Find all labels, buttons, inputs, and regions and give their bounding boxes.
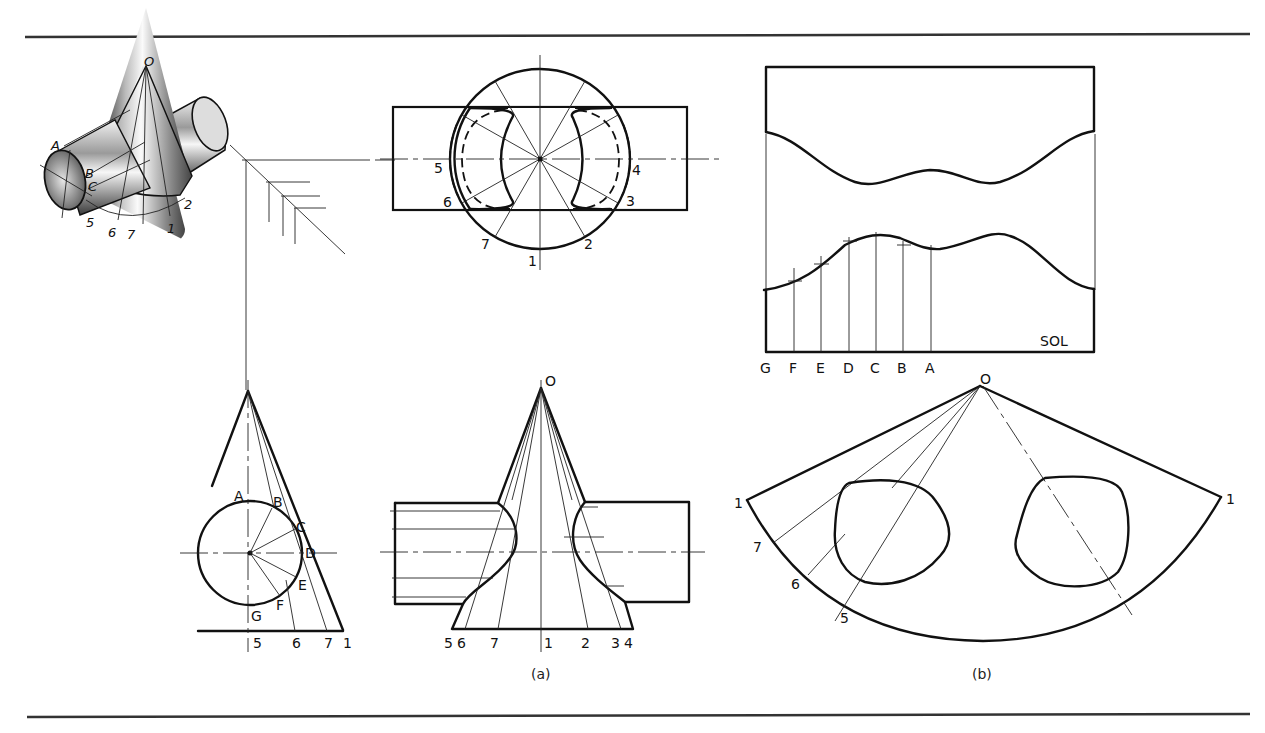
front-base-5: 5 bbox=[444, 635, 453, 651]
station-f: F bbox=[789, 360, 797, 376]
top-view-number-2: 2 bbox=[584, 236, 593, 252]
top-view-number-4: 4 bbox=[632, 162, 641, 178]
front-base-6: 6 bbox=[457, 635, 466, 651]
front-base-3: 3 bbox=[611, 635, 620, 651]
front-base-1: 1 bbox=[544, 635, 553, 651]
station-a: A bbox=[925, 360, 935, 376]
front-apex-label: O bbox=[545, 373, 556, 389]
side-letter-b: B bbox=[273, 494, 283, 510]
pictorial-number-6: 6 bbox=[108, 225, 116, 240]
side-base-7: 7 bbox=[324, 635, 333, 651]
top-view-number-5: 5 bbox=[434, 160, 443, 176]
side-base-5: 5 bbox=[253, 635, 262, 651]
left-hole bbox=[835, 480, 949, 584]
sol-stamp: SOL bbox=[1040, 333, 1068, 349]
miter-construction bbox=[230, 145, 395, 390]
pictorial-view: O A B C 5 6 7 1 2 bbox=[39, 8, 234, 242]
station-e: E bbox=[816, 360, 825, 376]
miter-line bbox=[230, 145, 345, 254]
caption-a: (a) bbox=[531, 666, 551, 682]
top-rule bbox=[25, 34, 1250, 37]
station-d: D bbox=[843, 360, 854, 376]
development-left-1: 1 bbox=[734, 495, 743, 511]
intersection-drawing-sheet: O A B C 5 6 7 1 2 bbox=[0, 0, 1265, 733]
cone-development: O 1 1 7 6 5 (b) bbox=[734, 371, 1235, 682]
bottom-rule bbox=[27, 714, 1250, 717]
development-radial-6: 6 bbox=[791, 576, 800, 592]
top-view-number-3: 3 bbox=[626, 193, 635, 209]
development-radial-5: 5 bbox=[840, 610, 849, 626]
side-letter-g: G bbox=[251, 608, 262, 624]
front-base-7: 7 bbox=[490, 635, 499, 651]
pictorial-number-1: 1 bbox=[167, 221, 175, 236]
side-letter-e: E bbox=[298, 577, 307, 593]
side-base-6: 6 bbox=[292, 635, 301, 651]
front-base-2: 2 bbox=[581, 635, 590, 651]
top-view-number-1: 1 bbox=[528, 253, 537, 269]
side-view: A B C D E F G 5 6 7 1 bbox=[180, 380, 352, 652]
side-base-1: 1 bbox=[343, 635, 352, 651]
pictorial-apex-label: O bbox=[144, 54, 154, 69]
pictorial-letter-c: C bbox=[88, 179, 98, 194]
pictorial-number-7: 7 bbox=[127, 227, 136, 242]
development-radial-7: 7 bbox=[753, 539, 762, 555]
top-view-number-6: 6 bbox=[443, 194, 452, 210]
right-hole bbox=[1016, 477, 1129, 587]
pictorial-letter-a: A bbox=[50, 138, 60, 153]
top-view: 5 6 7 1 2 3 4 bbox=[380, 55, 720, 270]
side-letter-c: C bbox=[296, 519, 306, 535]
top-view-number-7: 7 bbox=[481, 236, 490, 252]
pictorial-number-5: 5 bbox=[86, 215, 94, 230]
development-right-1: 1 bbox=[1226, 491, 1235, 507]
side-letter-f: F bbox=[276, 597, 284, 613]
cylinder-development: SOL G F E D C B A bbox=[760, 67, 1095, 376]
development-apex-label: O bbox=[980, 371, 991, 387]
front-view: O 5 6 7 1 2 3 4 (a) bbox=[380, 373, 705, 682]
front-base-4: 4 bbox=[624, 635, 633, 651]
side-letter-a: A bbox=[234, 488, 244, 504]
station-b: B bbox=[897, 360, 907, 376]
station-g: G bbox=[760, 360, 771, 376]
pictorial-number-2: 2 bbox=[184, 197, 192, 212]
side-letter-d: D bbox=[305, 545, 316, 561]
caption-b: (b) bbox=[972, 666, 992, 682]
station-c: C bbox=[870, 360, 880, 376]
